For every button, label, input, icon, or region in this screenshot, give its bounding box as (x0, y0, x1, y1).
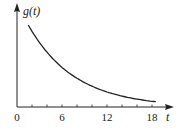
x-tick-label: 12 (102, 111, 113, 123)
axes (14, 3, 174, 110)
chart: g(t) t 061218 (0, 0, 182, 130)
x-tick-label: 6 (59, 111, 65, 123)
x-axis-label: t (166, 110, 170, 124)
x-tick-labels: 061218 (14, 111, 158, 123)
decay-curve (28, 25, 156, 102)
y-axis-label: g(t) (23, 4, 40, 18)
y-axis-arrow-icon (14, 3, 20, 12)
x-tick-label: 0 (14, 111, 20, 123)
x-tick-label: 18 (147, 111, 159, 123)
